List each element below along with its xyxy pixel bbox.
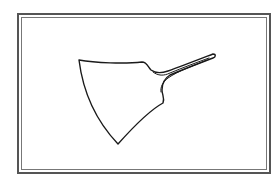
blade-artifact-drawing [0, 0, 279, 180]
blade-outline [79, 54, 215, 144]
